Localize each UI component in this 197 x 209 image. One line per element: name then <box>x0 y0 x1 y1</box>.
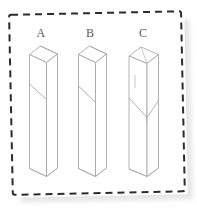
column-a <box>30 46 58 177</box>
column-b-front-face <box>79 55 96 177</box>
three-columns-diagram: A B C <box>0 0 197 209</box>
figure-container: A B C <box>0 0 197 209</box>
column-b-side-face <box>96 54 107 177</box>
column-a-side-face <box>47 54 58 177</box>
column-label-c: C <box>139 26 147 40</box>
column-c-front-face <box>129 56 147 177</box>
column-label-b: B <box>86 26 94 40</box>
column-c <box>129 47 159 177</box>
column-a-front-face <box>30 55 47 177</box>
column-label-a: A <box>37 26 46 40</box>
column-b <box>79 46 107 177</box>
